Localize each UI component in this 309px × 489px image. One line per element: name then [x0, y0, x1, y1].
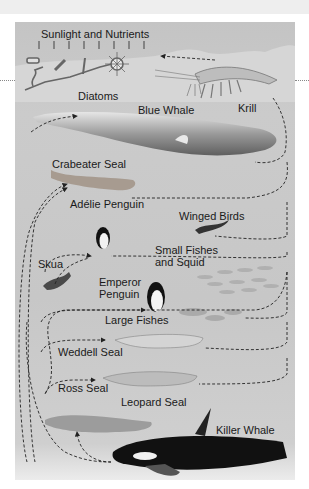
label-sunlight-nutrients: Sunlight and Nutrients [41, 28, 149, 40]
label-large-fishes: Large Fishes [105, 314, 169, 326]
right-dotted-line [295, 80, 309, 81]
label-winged-birds: Winged Birds [179, 210, 244, 222]
label-krill: Krill [238, 102, 256, 114]
label-adelie-penguin: Adélie Penguin [70, 198, 144, 210]
label-blue-whale: Blue Whale [138, 104, 194, 116]
label-small-fishes-squid: Small Fishes and Squid [155, 244, 225, 268]
top-bar [0, 0, 309, 14]
food-web-diagram: Sunlight and Nutrients Diatoms Krill Blu… [15, 22, 295, 480]
skua-illustration [43, 272, 71, 290]
winged-birds-illustration [195, 220, 229, 234]
label-skua: Skua [38, 258, 63, 270]
adelie-penguin-illustration [96, 227, 110, 249]
sunlight-arrows-icon [39, 41, 144, 49]
weddell-seal-illustration [115, 334, 203, 348]
leopard-seal-illustration [45, 415, 152, 432]
label-crabeater-seal: Crabeater Seal [52, 158, 126, 170]
label-weddell-seal: Weddell Seal [58, 346, 123, 358]
emperor-penguin-illustration [147, 282, 165, 312]
left-dotted-line [0, 80, 15, 81]
blue-whale-illustration [33, 112, 276, 155]
label-leopard-seal: Leopard Seal [121, 396, 186, 408]
label-killer-whale: Killer Whale [216, 424, 275, 436]
label-ross-seal: Ross Seal [58, 382, 108, 394]
killer-whale-illustration [113, 408, 288, 476]
crabeater-seal-illustration [51, 170, 135, 190]
ross-seal-illustration [103, 372, 197, 386]
small-fishes-squid-illustration [197, 266, 279, 294]
label-emperor-penguin: Emperor Penguin [99, 276, 149, 300]
label-diatoms: Diatoms [78, 90, 118, 102]
